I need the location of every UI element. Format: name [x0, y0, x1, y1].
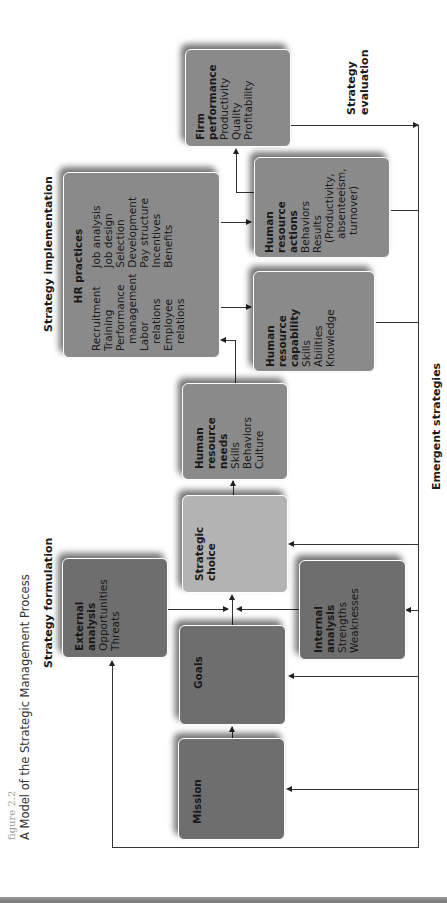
feedback-line-vertical: [418, 125, 419, 848]
goals-to-choice: [232, 596, 233, 625]
internal-join: [238, 609, 300, 610]
external-analysis-box: External analysis Opportunities Threats: [62, 558, 168, 658]
hr-practices-box: HR practices Recruitment Training Perfor…: [63, 172, 220, 358]
internal-analysis-box: Internal analysis Strengths Weaknesses: [299, 560, 406, 660]
figure-caption: figure 2.2 A Model of the Strategic Mana…: [6, 574, 32, 840]
arrow-to-choice: [288, 541, 294, 547]
mission-box: Mission: [178, 738, 285, 840]
actions-to-feedback: [391, 210, 418, 211]
hr-practices-col2: Job analysis Job design Selection Develo…: [90, 197, 186, 268]
feedback-to-goals: [290, 676, 418, 677]
hr-capability-box: Human resource capability Skills Abiliti…: [253, 271, 375, 372]
arrow-needs-practices: [220, 337, 226, 343]
strategy-implementation-label: Strategy implementation: [42, 176, 55, 332]
hr-practices-col1: Recruitment Training Performance managem…: [90, 274, 186, 351]
arrow-choice-needs: [230, 480, 236, 486]
mission-title: Mission: [191, 779, 203, 824]
strategy-evaluation-label: Strategy evaluation: [345, 50, 371, 116]
evaluation-line: [291, 125, 418, 126]
external-join: [168, 609, 228, 610]
capability-to-feedback: [376, 322, 418, 323]
figure-title: A Model of the Strategic Management Proc…: [18, 574, 32, 840]
arrow-goals-choice: [229, 594, 235, 600]
arrow-practices-actions: [246, 219, 252, 225]
feedback-to-choice: [290, 544, 418, 545]
arrow-to-external: [109, 660, 115, 666]
feedback-line-bottom: [112, 847, 419, 848]
strategic-choice-box: Strategic choice: [182, 495, 288, 593]
arrow-evaluation: [413, 122, 419, 128]
strategy-formulation-label: Strategy formulation: [42, 538, 55, 668]
goals-box: Goals: [179, 625, 286, 725]
arrow-actions-performance: [233, 148, 239, 154]
arrow-external-join: [223, 606, 229, 612]
arrow-internal-join: [236, 606, 242, 612]
feedback-to-mission: [288, 789, 418, 790]
emergent-strategies-label: Emergent strategies: [430, 363, 443, 490]
actions-to-performance-h: [236, 192, 254, 193]
arrow-mission-goals: [229, 726, 235, 732]
arrow-practices-capability: [246, 304, 252, 310]
arrow-to-goals: [288, 673, 294, 679]
actions-to-performance-v: [236, 150, 237, 193]
arrow-to-mission: [286, 786, 292, 792]
hr-actions-box: Human resource actions Behaviors Results…: [254, 157, 390, 258]
figure-number: figure 2.2: [6, 574, 18, 840]
needs-to-practices: [235, 340, 236, 383]
page-edge-shadow: [0, 897, 447, 903]
hr-needs-box: Human resource needs Skills Behaviors Cu…: [182, 383, 288, 480]
hr-practices-title: HR practices: [72, 181, 84, 351]
goals-title: Goals: [192, 656, 204, 689]
firm-performance-box: Firm performance Productivity Quality Pr…: [185, 49, 291, 147]
feedback-line-to-external: [112, 663, 113, 848]
